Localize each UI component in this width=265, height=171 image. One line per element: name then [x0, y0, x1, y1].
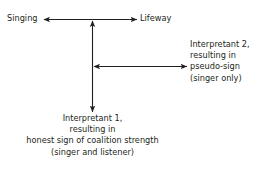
interpretant-1-block: Interpretant 1, resulting in honest sign…: [0, 113, 185, 158]
label-singing: Singing: [7, 13, 38, 23]
interpretant-2-line-4: (singer only): [190, 73, 250, 84]
interpretant-2-line-3: pseudo-sign: [190, 61, 250, 72]
interpretant-1-line-4: (singer and listener): [0, 147, 185, 158]
label-lifeway: Lifeway: [140, 13, 171, 23]
interpretant-1-line-3: honest sign of coalition strength: [0, 135, 185, 146]
interpretant-2-block: Interpretant 2, resulting in pseudo-sign…: [190, 39, 250, 84]
interpretant-2-line-1: Interpretant 2,: [190, 39, 250, 50]
interpretant-2-line-2: resulting in: [190, 50, 250, 61]
interpretant-1-line-1: Interpretant 1,: [0, 113, 185, 124]
diagram-canvas: Singing Lifeway Interpretant 2, resultin…: [0, 0, 265, 171]
interpretant-1-line-2: resulting in: [0, 124, 185, 135]
